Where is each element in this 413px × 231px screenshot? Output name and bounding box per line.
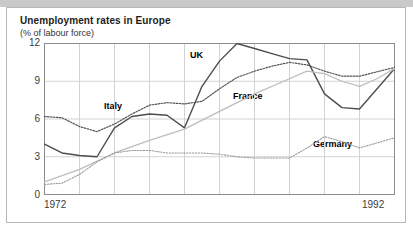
- x-axis-tick-start: 1972: [44, 199, 66, 210]
- grid-lines: [45, 44, 395, 195]
- y-axis-tick-3: 3: [14, 151, 40, 162]
- chart-title: Unemployment rates in Europe: [20, 15, 171, 26]
- y-axis-tick-12: 12: [14, 37, 40, 48]
- top-gray-band: [0, 0, 413, 7]
- y-axis-tick-0: 0: [14, 189, 40, 200]
- y-axis-tick-6: 6: [14, 113, 40, 124]
- y-axis-tick-9: 9: [14, 75, 40, 86]
- x-axis-tick-end: 1992: [362, 199, 384, 210]
- plot-area: [44, 43, 395, 195]
